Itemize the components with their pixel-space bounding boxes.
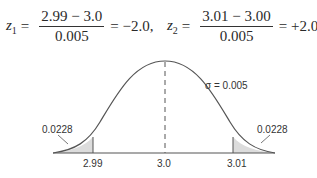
- left-tail-shade: [53, 137, 93, 153]
- right-tail-shade: [233, 137, 275, 153]
- normal-curve-figure: σ = 0.005 0.0228 0.0228 2.99 3.0 3.01: [0, 0, 317, 178]
- bell-curve: [53, 61, 275, 153]
- left-tail-label: 0.0228: [42, 124, 73, 135]
- tick-label-left: 2.99: [83, 158, 103, 169]
- page: z1 = 2.99 − 3.0 0.005 = −2.0, z2 = 3.01 …: [0, 0, 317, 178]
- tick-label-right: 3.01: [227, 158, 247, 169]
- sigma-label: σ = 0.005: [205, 80, 248, 91]
- tick-label-center: 3.0: [157, 158, 171, 169]
- left-leader-line: [58, 135, 68, 144]
- right-tail-label: 0.0228: [257, 124, 288, 135]
- right-leader-line: [261, 135, 270, 143]
